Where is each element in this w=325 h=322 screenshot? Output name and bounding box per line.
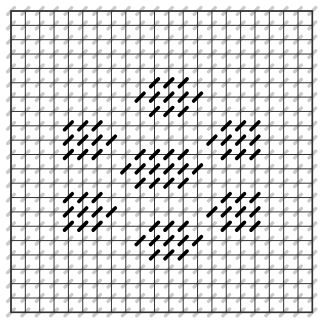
plot-background — [0, 0, 325, 322]
lattice-plot — [0, 0, 325, 322]
lattice-figure — [0, 0, 325, 322]
